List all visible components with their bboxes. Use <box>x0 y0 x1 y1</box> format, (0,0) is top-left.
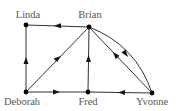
arrowhead-left-icon <box>118 90 125 95</box>
label-fred: Fred <box>78 96 98 107</box>
arrowhead-up-icon <box>86 55 91 62</box>
label-linda: Linda <box>16 9 41 20</box>
label-brian: Brian <box>78 9 102 20</box>
arrowhead-left-icon <box>54 23 61 28</box>
edges <box>24 23 153 95</box>
node-brian <box>87 25 92 30</box>
directed-graph: Linda Brian Deborah Fred Yvonne <box>0 0 176 111</box>
label-deborah: Deborah <box>4 96 41 107</box>
arrowhead-up-right-icon <box>54 56 61 62</box>
arrowhead-up-icon <box>24 57 29 64</box>
node-yvonne <box>150 91 155 96</box>
edge-yvonne-to-brian <box>89 27 152 93</box>
node-linda <box>24 23 29 28</box>
node-fred <box>86 90 91 95</box>
node-deborah <box>24 90 29 95</box>
arrowhead-right-icon <box>53 90 60 95</box>
label-yvonne: Yvonne <box>136 96 169 107</box>
